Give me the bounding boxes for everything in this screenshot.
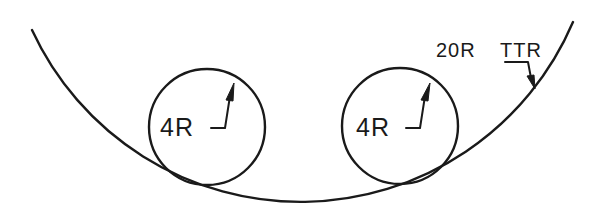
left-circle-group: 4R [149, 69, 265, 185]
outer-arc-20r [32, 22, 573, 202]
left-circle-leader-line [211, 96, 230, 128]
outer-arc-label-ttr: TTR [500, 39, 542, 61]
technical-drawing: 4R 4R 20R TTR [0, 0, 607, 215]
right-circle-arrowhead-icon [421, 83, 430, 101]
right-circle-label: 4R [356, 113, 390, 141]
outer-arc-callout: 20R TTR [436, 39, 542, 89]
outer-arc-arrowhead-icon [527, 75, 535, 89]
right-circle-group: 4R [342, 68, 458, 184]
outer-arc-label-radius: 20R [436, 39, 476, 61]
left-circle-arrowhead-icon [226, 83, 234, 101]
left-circle-label: 4R [160, 113, 194, 141]
right-circle-leader-line [406, 96, 425, 128]
